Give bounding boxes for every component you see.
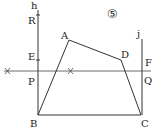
geometry-figure: h R E P B A D j F Q C ⑤ [0, 0, 153, 135]
label-h: h [31, 0, 38, 11]
label-F: F [145, 57, 152, 68]
label-B: B [30, 118, 37, 129]
figure-number: ⑤ [107, 7, 118, 21]
label-E: E [28, 51, 35, 62]
label-A: A [60, 30, 69, 41]
label-C: C [141, 118, 149, 129]
label-P: P [28, 76, 35, 87]
label-R: R [28, 15, 36, 26]
label-j: j [136, 28, 140, 39]
label-D: D [121, 49, 129, 60]
label-Q: Q [144, 75, 152, 86]
